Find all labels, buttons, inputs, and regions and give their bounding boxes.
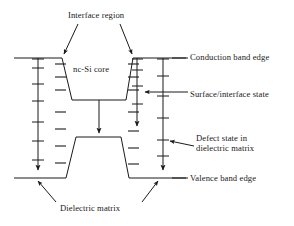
interface-region-leader-right: [120, 24, 132, 54]
label-defect-state-line1: Defect state in: [196, 133, 247, 143]
left-defect-state-arrow: [32, 58, 44, 170]
label-valence-band-edge: Valence band edge: [190, 173, 256, 183]
label-dielectric-matrix: Dielectric matrix: [60, 203, 120, 213]
dielectric-matrix-leader-left: [38, 181, 56, 202]
label-surface-interface-state: Surface/interface state: [190, 89, 269, 99]
surface-state-arrow: [132, 58, 143, 126]
band-diagram-svg: [0, 0, 294, 226]
dielectric-matrix-leader-right: [142, 181, 158, 202]
label-conduction-band-edge: Conduction band edge: [190, 52, 269, 62]
label-interface-region: Interface region: [68, 10, 124, 20]
left-interface-states: [55, 64, 66, 163]
right-defect-state-arrow: [157, 58, 169, 170]
interface-region-leader-left: [64, 24, 78, 54]
label-defect-state-line2: dielectric matrix: [196, 143, 254, 153]
figure-canvas: Interface region nc-Si core Conduction b…: [0, 0, 294, 226]
valence-band-curve: [14, 137, 186, 178]
label-nc-si-core: nc-Si core: [73, 64, 109, 74]
label-defect-state-in-dielectric-matrix: Defect state in dielectric matrix: [196, 133, 288, 153]
defect-state-leader: [170, 141, 194, 146]
